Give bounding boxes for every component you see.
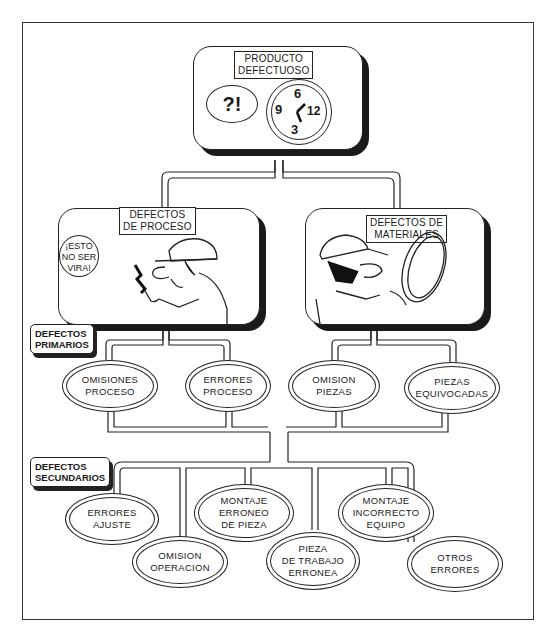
oval-label: OMISION PIEZAS [312,374,355,398]
clock-hands-icon [267,80,331,144]
secondary-defect-montaje-incorrecto-equipo: MONTAJE INCORRECTO EQUIPO [338,484,434,542]
secondary-defect-montaje-erroneo-pieza: MONTAJE ERRONEO DE PIEZA [194,484,294,542]
category-node-process-defects: DEFECTOS DE PROCESO ¡ESTO NO SER VIRA! [58,208,260,325]
level-tag-line1: DEFECTOS [35,328,89,339]
clock-icon: 6 9 12 3 [266,79,332,145]
level-tag-secondary-defects: DEFECTOS SECUNDARIOS [30,457,110,487]
oval-label: MONTAJE ERRONEO DE PIEZA [219,495,269,531]
secondary-defect-pieza-trabajo-erronea: PIEZA DE TRABAJO ERRONEA [266,532,360,590]
oval-label: MONTAJE INCORRECTO EQUIPO [353,495,420,531]
oval-label: PIEZAS EQUIVOCADAS [416,376,489,400]
oval-label: ERRORES AJUSTE [87,507,136,531]
oval-label: OMISIONES PROCESO [82,374,139,398]
oval-label: OTROS ERRORES [430,552,479,576]
primary-defect-piezas-equivocadas: PIEZAS EQUIVOCADAS [404,362,500,414]
speech-bubble-text: ?! [223,93,242,116]
worker-broken-tool-illustration [59,209,259,324]
root-label: PRODUCTO DEFECTUOSO [234,51,313,79]
secondary-defect-omision-operacion: OMISION OPERACION [132,536,228,588]
primary-defect-omisiones-proceso: OMISIONES PROCESO [62,360,158,412]
oval-label: PIEZA DE TRABAJO ERRONEA [282,543,344,579]
oval-label: ERRORES PROCESO [203,374,253,398]
category-node-material-defects: DEFECTOS DE MATERIALES [305,208,485,325]
root-node-product-defective: PRODUCTO DEFECTUOSO ?! 6 9 12 3 [193,46,363,150]
root-label-line1: PRODUCTO [238,53,309,65]
level-tag-primary-defects: DEFECTOS PRIMARIOS [30,324,94,354]
root-label-line2: DEFECTUOSO [238,65,309,77]
level-tag-line2: SECUNDARIOS [35,472,105,483]
worker-inspecting-part-illustration [306,209,484,324]
oval-label: OMISION OPERACION [150,550,210,574]
primary-defect-omision-piezas: OMISION PIEZAS [288,360,380,412]
secondary-defect-errores-ajuste: ERRORES AJUSTE [65,493,159,545]
level-tag-line1: DEFECTOS [35,461,105,472]
secondary-defect-otros-errores: OTROS ERRORES [407,536,503,592]
speech-bubble: ?! [206,85,258,123]
primary-defect-errores-proceso: ERRORES PROCESO [185,360,271,412]
level-tag-line2: PRIMARIOS [35,339,89,350]
